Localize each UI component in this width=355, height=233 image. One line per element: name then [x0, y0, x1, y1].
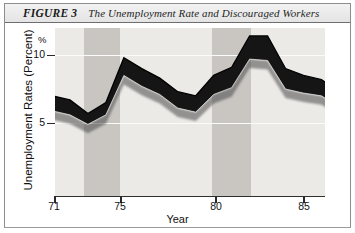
figure-title: The Unemployment Rate and Discouraged Wo… — [88, 7, 319, 19]
x-tick-label-71: 71 — [42, 200, 66, 212]
y-axis-unit: % — [38, 34, 46, 45]
figure-border-right — [350, 3, 351, 228]
figure-header: FIGURE 3 The Unemployment Rate and Disco… — [5, 4, 350, 23]
y-tick-label-10: 10 — [25, 48, 45, 60]
figure-container: FIGURE 3 The Unemployment Rate and Disco… — [0, 0, 355, 233]
figure-border-left — [4, 3, 5, 228]
y-tick-label-5: 5 — [25, 116, 45, 128]
figure-border-bottom — [4, 227, 351, 228]
x-axis-title: Year — [0, 213, 355, 225]
x-tick-label-85: 85 — [292, 200, 316, 212]
plot-area — [55, 28, 325, 196]
data-band — [55, 28, 325, 196]
x-axis-line — [55, 196, 325, 198]
figure-number: FIGURE 3 — [23, 7, 77, 19]
x-tick-label-75: 75 — [108, 200, 132, 212]
x-tick-label-80: 80 — [204, 200, 228, 212]
